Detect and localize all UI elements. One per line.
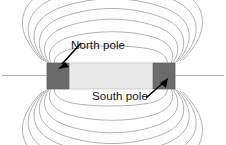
field-lines-upper — [22, 0, 202, 66]
field-lines-svg — [0, 0, 226, 145]
magnet-field-diagram: North pole South pole — [0, 0, 226, 145]
field-line-upper-4 — [39, 9, 183, 64]
field-line-upper-6 — [28, 0, 196, 61]
north-pole-label: North pole — [71, 40, 125, 52]
south-pole-label: South pole — [92, 91, 148, 103]
